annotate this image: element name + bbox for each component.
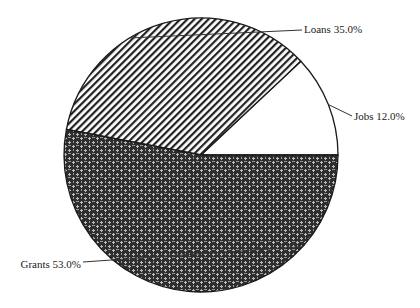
pie-chart: Jobs 12.0%Loans 35.0%Grants 53.0% [0,0,420,308]
slice-label-loans: Loans 35.0% [304,23,362,35]
slice-label-jobs: Jobs 12.0% [354,110,405,122]
slice-label-grants: Grants 53.0% [21,258,82,270]
